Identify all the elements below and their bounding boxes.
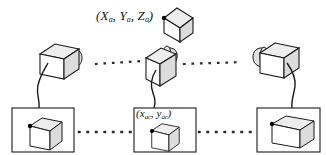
world-cube-corner-marker <box>162 16 166 20</box>
diagram-svg <box>0 0 326 155</box>
image-panel-right[interactable] <box>257 108 320 152</box>
image-label-close-paren: ) <box>168 107 172 119</box>
world-label-term-x: X <box>101 8 109 23</box>
image-point-label: (xac, yac) <box>136 108 171 119</box>
image-label-sub-x: ac <box>145 113 151 120</box>
image-panel-middle-corner-marker <box>150 129 154 133</box>
camera-middle[interactable] <box>146 46 177 108</box>
camera-row-dotted-right <box>184 62 243 64</box>
world-label-sep-2: , <box>131 8 138 23</box>
image-label-sub-y: ac <box>161 113 167 120</box>
image-panel-right-corner-marker <box>270 122 274 126</box>
camera-row-dotted-left <box>96 61 142 64</box>
world-label-close-paren: ) <box>149 8 154 23</box>
world-label-term-z: Z <box>138 8 145 23</box>
world-label-sub-y: a <box>127 15 131 24</box>
world-label-sub-x: a <box>109 15 113 24</box>
camera-right[interactable] <box>253 43 299 108</box>
image-label-term-x: x <box>140 107 145 119</box>
world-label-sub-z: a <box>145 15 149 24</box>
camera-left[interactable] <box>37 44 82 108</box>
image-panel-left[interactable] <box>12 108 74 152</box>
world-cube <box>162 8 193 42</box>
image-panel-left-corner-marker <box>28 124 32 128</box>
world-label-term-y: Y <box>119 8 126 23</box>
world-point-label: (Xa, Ya, Za) <box>96 9 153 22</box>
figure-canvas: (Xa, Ya, Za) (xac, yac) <box>0 0 326 155</box>
